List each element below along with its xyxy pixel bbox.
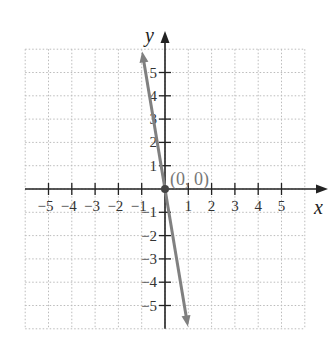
y-tick-label: −1 [141, 204, 157, 220]
y-tick-label: −2 [141, 228, 157, 244]
x-tick-label: 1 [185, 198, 193, 214]
x-tick-labels: −5−4−3−2−112345 [38, 198, 286, 214]
x-tick-label: −3 [84, 198, 100, 214]
x-tick-label: 4 [254, 198, 262, 214]
y-tick-label: 1 [150, 158, 158, 174]
x-tick-label: 5 [278, 198, 286, 214]
x-tick-label: −5 [38, 198, 54, 214]
origin-point-label: (0, 0) [170, 169, 209, 190]
origin-point [161, 185, 169, 193]
y-axis-arrow-icon [161, 31, 170, 43]
y-tick-label: −3 [141, 251, 157, 267]
x-tick-label: −2 [107, 198, 123, 214]
y-tick-label: −4 [141, 274, 157, 290]
coordinate-plane: −5−4−3−2−112345 54321−1−2−3−4−5 (0, 0) x… [0, 0, 332, 347]
x-axis-label: x [313, 196, 323, 218]
line-arrow-up-icon [140, 52, 149, 64]
y-tick-label: 5 [150, 65, 158, 81]
x-axis-arrow-icon [316, 185, 328, 194]
line-arrow-down-icon [182, 315, 191, 327]
x-tick-label: −4 [61, 198, 77, 214]
x-tick-label: 3 [231, 198, 239, 214]
x-tick-label: 2 [208, 198, 216, 214]
y-tick-label: −5 [141, 298, 157, 314]
y-axis-label: y [143, 24, 154, 47]
